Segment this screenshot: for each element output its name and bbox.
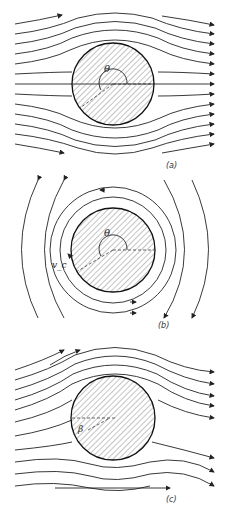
angle-theta-a: θ	[104, 63, 110, 74]
flow-diagram: θ (a) θ v_c (b)	[0, 0, 230, 511]
caption-c: (c)	[166, 495, 177, 504]
velocity-label-vc: v_c	[52, 260, 67, 271]
caption-b: (b)	[158, 321, 169, 330]
panel-b: θ v_c (b)	[22, 180, 209, 330]
angle-theta-b: θ	[104, 227, 110, 238]
panel-c: β (c)	[15, 348, 214, 505]
caption-a: (a)	[166, 161, 177, 170]
angle-beta-c: β	[77, 424, 83, 434]
panel-a: θ (a)	[15, 13, 214, 170]
